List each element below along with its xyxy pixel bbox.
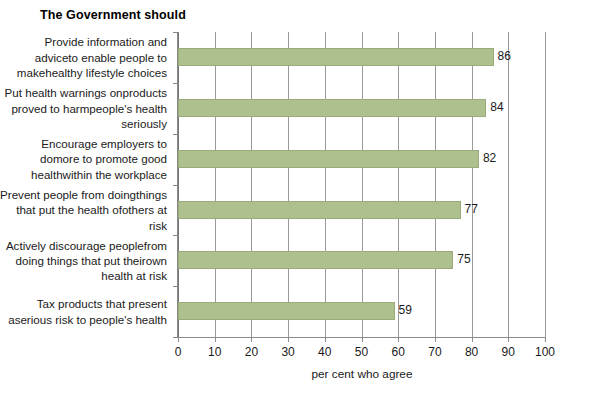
x-axis-tick-label: 60 bbox=[378, 345, 418, 359]
x-axis-tick-label: 30 bbox=[268, 345, 308, 359]
x-axis-tick bbox=[215, 337, 216, 342]
x-axis-tick bbox=[288, 337, 289, 342]
category-label-line: Put health warnings on bbox=[5, 86, 123, 99]
x-axis-tick-label: 10 bbox=[195, 345, 235, 359]
bar-value-label: 84 bbox=[490, 98, 503, 117]
x-axis-tick bbox=[251, 337, 252, 342]
x-axis-tick bbox=[472, 337, 473, 342]
bar-row: 82 bbox=[178, 134, 545, 185]
category-label-line: serious risk to people's health bbox=[15, 313, 167, 326]
bar-row: 86 bbox=[178, 32, 545, 83]
bar-value-label: 82 bbox=[483, 149, 496, 168]
x-axis-tick-label: 50 bbox=[342, 345, 382, 359]
x-axis-tick-label: 90 bbox=[488, 345, 528, 359]
x-axis-tick bbox=[545, 337, 546, 342]
plot-area: 868482777559 bbox=[178, 32, 545, 337]
bar-value-label: 86 bbox=[498, 47, 511, 66]
category-label: Actively discourage peoplefrom doing thi… bbox=[0, 238, 170, 284]
category-label: Encourage employers to domore to promote… bbox=[0, 136, 170, 182]
bar bbox=[178, 48, 494, 66]
x-axis-tick-label: 100 bbox=[525, 345, 565, 359]
bar bbox=[178, 150, 479, 168]
x-axis-tick bbox=[398, 337, 399, 342]
category-label: Tax products that present aserious risk … bbox=[0, 296, 170, 327]
bar-value-label: 59 bbox=[399, 301, 412, 320]
x-axis-title: per cent who agree bbox=[178, 367, 546, 381]
x-axis-tick bbox=[362, 337, 363, 342]
chart-title: The Government should bbox=[40, 8, 186, 22]
bar-row: 59 bbox=[178, 286, 545, 337]
bar bbox=[178, 251, 453, 269]
category-label-line: people's health seriously bbox=[89, 102, 167, 130]
bar-row: 75 bbox=[178, 235, 545, 286]
x-axis-tick-label: 70 bbox=[415, 345, 455, 359]
category-label-line: Actively discourage people bbox=[6, 239, 144, 252]
x-axis-tick bbox=[508, 337, 509, 342]
bar-chart: The Government should Provide informatio… bbox=[0, 0, 589, 399]
bar-value-label: 77 bbox=[465, 200, 478, 219]
bar-value-label: 75 bbox=[457, 250, 470, 269]
bar bbox=[178, 201, 461, 219]
category-label-line: others at risk bbox=[122, 203, 167, 231]
category-label: Provide information and adviceto enable … bbox=[0, 34, 170, 80]
x-axis-tick bbox=[325, 337, 326, 342]
category-label: Prevent people from doingthings that put… bbox=[0, 187, 170, 233]
bar bbox=[178, 302, 395, 320]
x-axis-tick-label: 0 bbox=[158, 345, 198, 359]
bar-row: 77 bbox=[178, 185, 545, 236]
bar-row: 84 bbox=[178, 83, 545, 134]
x-axis-tick-label: 80 bbox=[452, 345, 492, 359]
x-axis-tick bbox=[435, 337, 436, 342]
category-label-line: within the workplace bbox=[63, 168, 167, 181]
bar bbox=[178, 99, 486, 117]
category-label-line: healthy lifestyle choices bbox=[45, 66, 167, 79]
category-label-line: Prevent people from doing bbox=[0, 188, 136, 201]
category-axis-labels: Provide information and adviceto enable … bbox=[0, 32, 172, 337]
x-axis-tick bbox=[178, 337, 179, 342]
category-label: Put health warnings onproducts proved to… bbox=[0, 85, 170, 131]
x-axis-tick-label: 20 bbox=[231, 345, 271, 359]
gridline-100 bbox=[545, 32, 546, 337]
x-axis-tick-label: 40 bbox=[305, 345, 345, 359]
